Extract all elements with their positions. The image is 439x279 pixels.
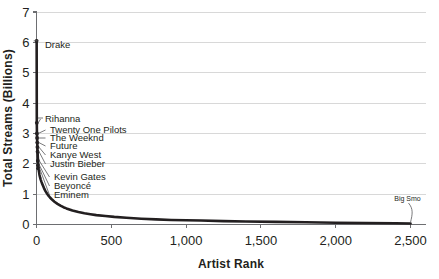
x-axis-title: Artist Rank — [198, 257, 264, 271]
x-tick-group: 05001,0001,5002,0002,500 — [33, 225, 427, 248]
y-tick-label: 3 — [22, 126, 29, 141]
y-axis-title: Total Streams (Billions) — [1, 49, 15, 187]
chart-canvas: 01234567 05001,0001,5002,0002,500 Artist… — [0, 0, 439, 279]
annotation-leader — [38, 119, 40, 123]
data-point — [36, 166, 40, 170]
x-tick-label: 1,000 — [170, 233, 203, 248]
y-tick-label: 1 — [22, 187, 29, 202]
annotation-label: Justin Bieber — [50, 158, 105, 169]
annotation-leader — [39, 143, 46, 147]
data-point — [35, 141, 39, 145]
y-tick-label: 6 — [22, 35, 29, 50]
x-tick-label: 2,500 — [394, 233, 427, 248]
data-point — [35, 145, 39, 149]
annotation-leader-big-smo — [409, 203, 413, 222]
data-point — [35, 132, 39, 136]
y-tick-label: 2 — [22, 156, 29, 171]
data-point — [35, 136, 39, 140]
x-tick-label: 0 — [33, 233, 40, 248]
data-point — [35, 121, 39, 125]
y-tick-label: 5 — [22, 65, 29, 80]
data-point — [36, 159, 40, 163]
data-point — [36, 150, 40, 154]
axes-group — [37, 12, 427, 225]
x-tick-label: 500 — [100, 233, 122, 248]
streams-chart: 01234567 05001,0001,5002,0002,500 Artist… — [0, 0, 439, 279]
x-tick-label: 1,500 — [245, 233, 278, 248]
annotation-label: Drake — [45, 39, 70, 50]
annotation-labels-group: DrakeRihannaTwenty One PilotsThe WeekndF… — [45, 39, 421, 203]
annotation-label: Eminem — [54, 189, 89, 200]
y-tick-group: 01234567 — [22, 5, 36, 233]
y-tick-label: 4 — [22, 96, 29, 111]
x-tick-label: 2,000 — [319, 233, 352, 248]
annotation-label: Rihanna — [45, 113, 81, 124]
y-tick-label: 7 — [22, 5, 29, 20]
annotation-leader — [38, 130, 45, 133]
y-tick-label: 0 — [22, 217, 29, 232]
annotation-label-big-smo: Big Smo — [394, 195, 421, 203]
